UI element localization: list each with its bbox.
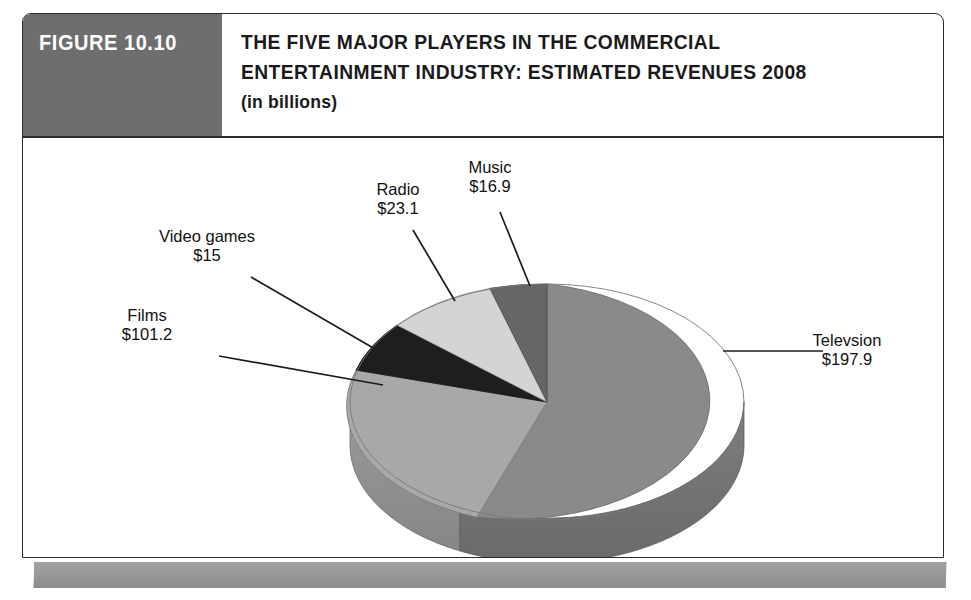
figure-title-line-1: THE FIVE MAJOR PLAYERS IN THE COMMERCIAL — [241, 27, 888, 57]
pie-label-films-name: Films — [91, 306, 203, 326]
figure-root: FIGURE 10.10 THE FIVE MAJOR PLAYERS IN T… — [0, 0, 971, 600]
figure-number-label: FIGURE 10.10 — [39, 31, 177, 56]
leader-line-radio — [413, 230, 455, 301]
leader-line-video-games — [251, 277, 375, 349]
pie-label-video-games-name: Video games — [141, 227, 273, 247]
pie-label-films: Films $101.2 — [91, 306, 203, 345]
figure-title-line-2: ENTERTAINMENT INDUSTRY: ESTIMATED REVENU… — [241, 57, 888, 87]
pie-label-television-name: Televsion — [785, 331, 909, 351]
figure-subtitle: (in billions) — [241, 87, 898, 116]
pie-label-video-games-value: $15 — [141, 246, 273, 266]
pie-label-video-games: Video games $15 — [141, 227, 273, 266]
leader-line-music — [500, 212, 530, 286]
figure-title-block: THE FIVE MAJOR PLAYERS IN THE COMMERCIAL… — [241, 27, 933, 116]
figure-number-badge: FIGURE 10.10 — [23, 14, 222, 136]
chart-panel: Music $16.9 Radio $23.1 Video games $15 … — [23, 138, 943, 558]
figure-frame: FIGURE 10.10 THE FIVE MAJOR PLAYERS IN T… — [22, 13, 944, 558]
pie-label-radio-name: Radio — [343, 180, 453, 200]
figure-bottom-bar-shade — [34, 562, 947, 588]
pie-label-television-value: $197.9 — [785, 350, 909, 370]
figure-header: FIGURE 10.10 THE FIVE MAJOR PLAYERS IN T… — [23, 14, 943, 136]
pie-label-radio-value: $23.1 — [343, 199, 453, 219]
figure-bottom-bar — [34, 562, 947, 588]
pie-label-music-name: Music — [435, 158, 545, 178]
pie-label-television: Televsion $197.9 — [785, 331, 909, 370]
pie-label-radio: Radio $23.1 — [343, 180, 453, 219]
pie-label-films-value: $101.2 — [91, 325, 203, 345]
